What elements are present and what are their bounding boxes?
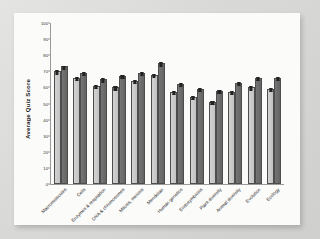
error-bar-cap-bottom <box>114 90 117 91</box>
bar-series-container <box>51 23 284 184</box>
error-bar-cap-bottom <box>75 80 78 81</box>
y-tick-mark <box>48 39 50 40</box>
y-axis-title: Average Quiz Score <box>20 59 34 159</box>
bar-series1[interactable] <box>209 102 216 184</box>
error-bar-cap-bottom <box>237 85 240 86</box>
bar-group <box>190 23 204 184</box>
y-tick-mark <box>48 135 50 136</box>
error-bar <box>191 96 194 100</box>
error-bar-cap-bottom <box>56 74 59 75</box>
bar-series1[interactable] <box>112 87 119 184</box>
bar-series1[interactable] <box>151 75 158 184</box>
error-bar <box>250 86 253 90</box>
error-bar <box>94 85 97 89</box>
error-bar-cap-bottom <box>179 86 182 87</box>
error-bar-cap-bottom <box>133 83 136 84</box>
error-bar <box>179 83 182 87</box>
error-bar-cap-bottom <box>211 104 214 105</box>
screenshot-root: Average Quiz Score 010203040506070809010… <box>0 0 320 239</box>
bar-series1[interactable] <box>267 89 274 184</box>
bar-series2[interactable] <box>197 89 204 184</box>
chart-figure: Average Quiz Score 010203040506070809010… <box>14 13 300 225</box>
bar-series2[interactable] <box>177 84 184 184</box>
error-bar-cap-top <box>198 88 201 89</box>
bar-series2[interactable] <box>216 91 223 184</box>
error-bar-cap-top <box>56 70 59 71</box>
x-axis-labels: MacromoleculesCellsEnzymes & respiration… <box>50 187 284 239</box>
error-bar-cap-bottom <box>140 75 143 76</box>
bar-series1[interactable] <box>93 86 100 184</box>
error-bar-cap-top <box>94 85 97 86</box>
error-bar-cap-top <box>276 77 279 78</box>
bar-series2[interactable] <box>158 63 165 184</box>
bar-series2[interactable] <box>61 66 68 184</box>
error-bar-cap-top <box>211 101 214 102</box>
error-bar-cap-top <box>121 75 124 76</box>
error-bar-cap-bottom <box>121 78 124 79</box>
error-bar-cap-top <box>153 74 156 75</box>
error-bar <box>198 88 201 92</box>
error-bar-cap-top <box>191 96 194 97</box>
bar-series2[interactable] <box>274 78 281 184</box>
bar-group <box>131 23 145 184</box>
error-bar <box>230 91 233 95</box>
bar-series1[interactable] <box>228 92 235 184</box>
bar-group <box>209 23 223 184</box>
error-bar-cap-bottom <box>160 66 163 67</box>
bar-series2[interactable] <box>119 76 126 184</box>
bar-group <box>170 23 184 184</box>
error-bar <box>101 78 104 82</box>
bar-series2[interactable] <box>100 79 107 184</box>
x-tick-label: Macromolecules <box>40 187 67 214</box>
bar-group <box>54 23 68 184</box>
bar-series1[interactable] <box>190 97 197 184</box>
bar-series2[interactable] <box>138 73 145 184</box>
error-bar-cap-bottom <box>230 94 233 95</box>
bar-group <box>248 23 262 184</box>
error-bar <box>211 101 214 105</box>
bar-series1[interactable] <box>54 71 61 184</box>
bar-group <box>73 23 87 184</box>
bar-series2[interactable] <box>235 83 242 184</box>
error-bar-cap-bottom <box>276 80 279 81</box>
error-bar-cap-bottom <box>218 93 221 94</box>
y-tick-mark <box>48 184 50 185</box>
error-bar-cap-top <box>114 86 117 87</box>
error-bar-cap-top <box>218 90 221 91</box>
error-bar <box>140 72 143 76</box>
error-bar-cap-top <box>133 80 136 81</box>
error-bar-cap-bottom <box>153 77 156 78</box>
chart-card: Average Quiz Score 010203040506070809010… <box>14 13 300 225</box>
bar-series1[interactable] <box>73 78 80 184</box>
bar-series1[interactable] <box>131 81 138 184</box>
bar-series1[interactable] <box>248 87 255 184</box>
error-bar-cap-top <box>140 72 143 73</box>
error-bar-cap-top <box>237 82 240 83</box>
error-bar-cap-top <box>269 88 272 89</box>
x-tick-label: Ecology <box>266 187 281 202</box>
x-tick-label: Evolution <box>244 187 261 204</box>
error-bar <box>218 90 221 94</box>
error-bar <box>82 72 85 76</box>
error-bar <box>257 77 260 81</box>
bar-group <box>93 23 107 184</box>
bar-group <box>112 23 126 184</box>
error-bar <box>172 91 175 95</box>
bar-series2[interactable] <box>255 78 262 184</box>
bar-group <box>151 23 165 184</box>
y-tick-mark <box>48 119 50 120</box>
y-tick-label: 100 <box>41 21 48 26</box>
error-bar-cap-top <box>179 83 182 84</box>
error-bar <box>160 62 163 66</box>
bar-series1[interactable] <box>170 92 177 184</box>
error-bar-cap-top <box>75 77 78 78</box>
y-tick-mark <box>48 23 50 24</box>
x-tick-label: Enzymes & respiration <box>70 187 106 223</box>
error-bar-cap-top <box>250 86 253 87</box>
error-bar-cap-bottom <box>63 69 66 70</box>
x-tick-label: Cells <box>76 187 87 198</box>
error-bar-cap-bottom <box>82 75 85 76</box>
error-bar-cap-bottom <box>172 94 175 95</box>
bar-group <box>267 23 281 184</box>
bar-series2[interactable] <box>80 73 87 184</box>
